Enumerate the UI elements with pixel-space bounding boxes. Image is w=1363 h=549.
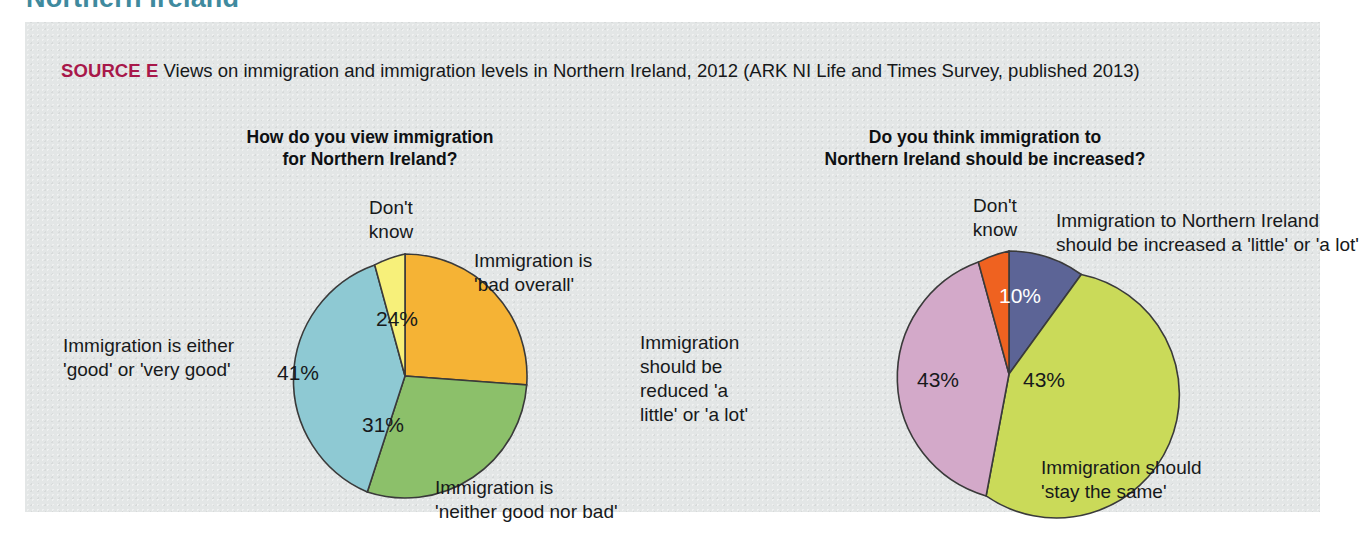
- pie-left-pct-bad-overall: 24%: [376, 307, 418, 331]
- callout-right-increased: Immigration to Northern Ireland should b…: [1056, 209, 1363, 257]
- callout-left-dont-know-line1: Don't: [341, 196, 441, 220]
- callout-right-increased-line2: should be increased a 'little' or 'a lot…: [1056, 233, 1363, 257]
- chart-left-title-line1: How do you view immigration: [50, 126, 690, 148]
- chart-left-title-line2: for Northern Ireland?: [50, 148, 690, 170]
- callout-left-good-line1: Immigration is either: [63, 334, 288, 358]
- pie-right-pct-increased: 10%: [999, 284, 1041, 308]
- callout-left-good-line2: 'good' or 'very good': [63, 358, 288, 382]
- chart-view-immigration: How do you view immigration for Northern…: [50, 126, 690, 526]
- callout-left-dont-know-line2: know: [341, 220, 441, 244]
- source-caption-text: Views on immigration and immigration lev…: [158, 60, 1139, 81]
- pie-right-pct-reduced: 43%: [917, 368, 959, 392]
- chart-left-title: How do you view immigration for Northern…: [50, 126, 690, 170]
- callout-right-dont-know-line1: Don't: [945, 194, 1045, 218]
- page-running-head: Northern Ireland: [26, 0, 239, 14]
- callout-right-stay-same-line2: 'stay the same': [1041, 480, 1291, 504]
- callout-left-bad-overall-line1: Immigration is: [474, 249, 690, 273]
- callout-right-dont-know-line2: know: [945, 218, 1045, 242]
- source-label: SOURCE E: [61, 60, 158, 81]
- callout-right-reduced: Immigration should be reduced 'a little'…: [640, 331, 800, 427]
- callout-left-neither: Immigration is 'neither good nor bad': [435, 476, 690, 524]
- callout-right-dont-know: Don't know: [945, 194, 1045, 242]
- chart-right-title: Do you think immigration to Northern Ire…: [665, 126, 1305, 170]
- source-panel: SOURCE E Views on immigration and immigr…: [25, 22, 1320, 512]
- callout-right-reduced-line2: should be: [640, 355, 800, 379]
- callout-left-dont-know: Don't know: [341, 196, 441, 244]
- callout-right-reduced-line1: Immigration: [640, 331, 800, 355]
- callout-left-neither-line2: 'neither good nor bad': [435, 500, 690, 524]
- pie-left-pct-neither: 31%: [362, 413, 404, 437]
- source-caption: SOURCE E Views on immigration and immigr…: [61, 58, 1306, 84]
- callout-right-reduced-line4: little' or 'a lot': [640, 403, 800, 427]
- callout-right-stay-same: Immigration should 'stay the same': [1041, 456, 1291, 504]
- chart-right-title-line1: Do you think immigration to: [665, 126, 1305, 148]
- callout-right-stay-same-line1: Immigration should: [1041, 456, 1291, 480]
- chart-right-title-line2: Northern Ireland should be increased?: [665, 148, 1305, 170]
- callout-left-good: Immigration is either 'good' or 'very go…: [63, 334, 288, 382]
- callout-right-reduced-line3: reduced 'a: [640, 379, 800, 403]
- pie-right-pct-stay-same: 43%: [1023, 368, 1065, 392]
- callout-left-bad-overall-line2: 'bad overall': [474, 273, 690, 297]
- callout-right-increased-line1: Immigration to Northern Ireland: [1056, 209, 1363, 233]
- callout-left-bad-overall: Immigration is 'bad overall': [474, 249, 690, 297]
- callout-left-neither-line1: Immigration is: [435, 476, 690, 500]
- chart-should-be-increased: Do you think immigration to Northern Ire…: [665, 126, 1355, 526]
